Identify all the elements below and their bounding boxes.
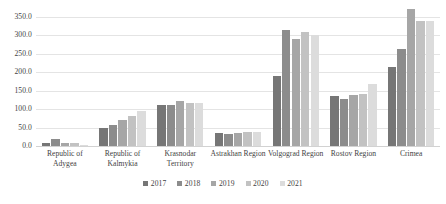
bar[interactable]: [109, 125, 117, 146]
y-axis-tick-label: 100.0: [0, 105, 32, 113]
x-axis-category-label: Crimea: [382, 149, 440, 175]
bar[interactable]: [407, 9, 415, 146]
bar[interactable]: [282, 30, 290, 146]
bar[interactable]: [186, 103, 194, 146]
bar[interactable]: [416, 21, 424, 146]
legend-label: 2020: [253, 180, 269, 188]
legend-swatch-icon: [280, 181, 285, 186]
bar[interactable]: [349, 95, 357, 146]
legend-item[interactable]: 2021: [280, 180, 303, 188]
bar[interactable]: [51, 139, 59, 146]
x-axis-category-label: Republic of Adygea: [36, 149, 94, 175]
bar-group: [325, 17, 383, 146]
legend-item[interactable]: 2019: [211, 180, 234, 188]
bar[interactable]: [137, 111, 145, 146]
bar[interactable]: [253, 132, 261, 146]
legend-label: 2017: [151, 180, 167, 188]
x-axis-category-label: Republic of Kalmykia: [94, 149, 152, 175]
bar-groups: [36, 17, 440, 146]
y-axis-tick-label: 50.0: [0, 124, 32, 132]
legend-item[interactable]: 2017: [143, 180, 166, 188]
bar[interactable]: [128, 116, 136, 146]
y-axis-tick-label: 350.0: [0, 13, 32, 21]
y-axis-tick-label: 150.0: [0, 87, 32, 95]
legend-swatch-icon: [177, 181, 182, 186]
bar[interactable]: [301, 32, 309, 146]
axis-baseline: [36, 146, 440, 147]
bar[interactable]: [176, 101, 184, 146]
legend-label: 2021: [287, 180, 303, 188]
bar[interactable]: [292, 39, 300, 146]
bar[interactable]: [234, 133, 242, 146]
bar[interactable]: [397, 49, 405, 146]
bar[interactable]: [42, 143, 50, 146]
bar[interactable]: [243, 132, 251, 146]
bar[interactable]: [80, 145, 88, 146]
legend-swatch-icon: [246, 181, 251, 186]
legend-swatch-icon: [211, 181, 216, 186]
legend-swatch-icon: [143, 181, 148, 186]
bar[interactable]: [195, 103, 203, 146]
legend-label: 2019: [219, 180, 235, 188]
bar[interactable]: [330, 96, 338, 146]
bar[interactable]: [61, 143, 69, 146]
legend-item[interactable]: 2018: [177, 180, 200, 188]
bar[interactable]: [388, 67, 396, 146]
bar[interactable]: [224, 134, 232, 146]
bar[interactable]: [368, 84, 376, 146]
x-axis-category-label: Volgograd Region: [267, 149, 325, 175]
bar-group: [151, 17, 209, 146]
bar[interactable]: [167, 105, 175, 146]
bar-group: [36, 17, 94, 146]
y-axis-tick-label: 0.0: [0, 142, 32, 150]
bar[interactable]: [311, 35, 319, 146]
plot-area: [36, 17, 440, 146]
bar[interactable]: [157, 105, 165, 146]
bar[interactable]: [359, 94, 367, 146]
y-axis-tick-label: 250.0: [0, 50, 32, 58]
bar-group: [209, 17, 267, 146]
y-axis-tick-label: 200.0: [0, 68, 32, 76]
bar[interactable]: [273, 76, 281, 146]
bar[interactable]: [70, 143, 78, 146]
bar-chart: 0.050.0100.0150.0200.0250.0300.0350.0 Re…: [0, 0, 446, 204]
bar[interactable]: [215, 133, 223, 146]
bar[interactable]: [340, 99, 348, 146]
y-axis: 0.050.0100.0150.0200.0250.0300.0350.0: [0, 17, 32, 146]
legend-label: 2018: [185, 180, 201, 188]
x-axis-category-label: Rostov Region: [325, 149, 383, 175]
x-axis-category-label: Krasnodar Territory: [151, 149, 209, 175]
x-axis-category-label: Astrakhan Region: [209, 149, 267, 175]
chart-legend: 20172018201920202021: [0, 180, 446, 188]
bar-group: [94, 17, 152, 146]
bar[interactable]: [99, 128, 107, 146]
x-axis-labels: Republic of AdygeaRepublic of KalmykiaKr…: [36, 149, 440, 175]
bar[interactable]: [118, 120, 126, 146]
bar[interactable]: [426, 21, 434, 146]
legend-item[interactable]: 2020: [246, 180, 269, 188]
bar-group: [382, 17, 440, 146]
y-axis-tick-label: 300.0: [0, 32, 32, 40]
bar-group: [267, 17, 325, 146]
